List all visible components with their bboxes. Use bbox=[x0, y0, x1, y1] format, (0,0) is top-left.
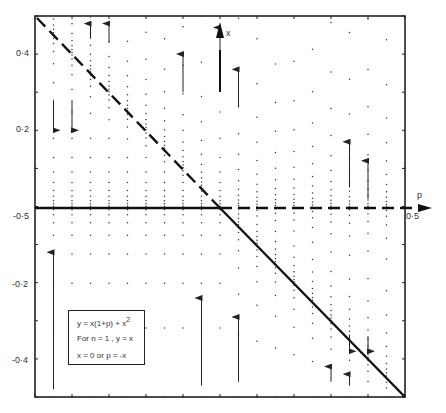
p-axis-arrow-icon bbox=[418, 204, 432, 212]
unstable-branch-diagonal bbox=[37, 18, 220, 208]
p-max-label: 0·5 bbox=[406, 211, 419, 221]
y-label-0.4: 0·4 bbox=[16, 48, 29, 58]
p-min-label: -0·5 bbox=[13, 211, 29, 221]
legend-equation: y = x(1+p) + x2 bbox=[77, 316, 130, 328]
legend-solutions: x = 0 or p = -x bbox=[77, 351, 126, 360]
x-axis-label: x bbox=[226, 28, 231, 38]
y-label-neg0.2: -0·2 bbox=[12, 279, 28, 289]
y-label-0.2: 0·2 bbox=[16, 124, 29, 134]
legend-condition: For n = 1 , y = x bbox=[77, 334, 133, 343]
y-label-neg0.4: -0·4 bbox=[12, 355, 28, 365]
equation-legend-box: y = x(1+p) + x2 For n = 1 , y = x x = 0 … bbox=[68, 310, 145, 365]
p-axis-label: p bbox=[417, 190, 422, 200]
x-axis-arrow-icon bbox=[216, 22, 224, 38]
stable-branch-diagonal bbox=[220, 208, 405, 397]
bifurcation-plot bbox=[0, 0, 446, 413]
